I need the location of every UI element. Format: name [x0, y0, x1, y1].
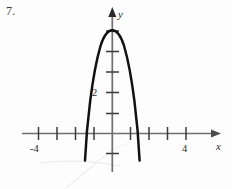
scan-artifact: [40, 143, 128, 188]
x-tick-label-4: 4: [182, 143, 188, 154]
y-tick-label-2: 2: [92, 87, 97, 98]
x-axis-label: x: [215, 140, 221, 152]
figure-panel: 7.: [0, 0, 232, 189]
x-tick-label-minus-4: -4: [30, 143, 39, 154]
graph-figure: y x -4 4 2: [0, 0, 232, 189]
x-axis: [22, 130, 221, 138]
y-axis-label: y: [117, 8, 123, 20]
